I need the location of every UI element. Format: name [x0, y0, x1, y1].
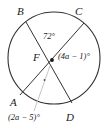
- vertex-label-f: F: [33, 52, 40, 63]
- vertex-label-a: A: [10, 97, 17, 108]
- vertex-label-d: D: [66, 112, 74, 123]
- vertex-label-c: C: [75, 6, 82, 17]
- point-leader-dot: [44, 79, 46, 81]
- angle-label-cfd: (4a − 1)°: [58, 52, 90, 61]
- vertex-label-b: B: [17, 6, 24, 17]
- point-F-dot: [50, 58, 54, 62]
- angle-label-bfc: 72°: [43, 32, 55, 41]
- angle-label-afd: (2a − 5)°: [8, 113, 40, 122]
- geometry-figure: [0, 0, 106, 130]
- leader-line-2a: [34, 66, 50, 111]
